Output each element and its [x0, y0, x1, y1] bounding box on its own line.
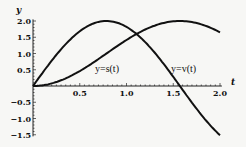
s-curve-line: [33, 21, 220, 86]
y-tick-label: 2.0: [17, 16, 31, 26]
y-tick-label: 0.5: [17, 65, 31, 75]
y-axis-label: y: [15, 5, 22, 15]
s-curve-label: y=s(t): [95, 63, 119, 75]
x-tick-label: 1.5: [166, 88, 180, 98]
y-tick-label: 1.5: [17, 32, 31, 42]
x-tick-label: 2.0: [213, 88, 227, 98]
x-tick-label: 0.5: [73, 88, 87, 98]
y-tick-label: −0.5: [10, 97, 31, 107]
v-curve-label: y=v(t): [171, 63, 196, 75]
y-tick-label: −1.5: [10, 130, 31, 140]
v-curve-line: [33, 21, 220, 135]
y-tick-label: −1.0: [10, 114, 31, 124]
x-tick-label: 1.0: [120, 88, 134, 98]
y-tick-label: 1.0: [17, 49, 31, 59]
ticks: 0.51.01.52.02.01.51.00.5−0.5−1.0−1.5: [10, 16, 227, 140]
x-axis-label: t: [231, 77, 236, 87]
chart: 0.51.01.52.02.01.51.00.5−0.5−1.0−1.5 y t…: [0, 0, 246, 147]
axes: [33, 19, 222, 136]
